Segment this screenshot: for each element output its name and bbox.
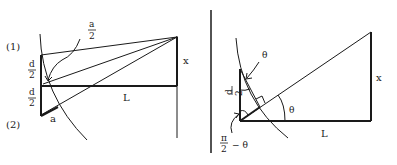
label-d-lower-num: d xyxy=(29,87,35,97)
complement-angle-arc xyxy=(240,111,248,116)
label-d-lower-den: 2 xyxy=(29,98,35,108)
label-theta-angle: θ xyxy=(289,105,294,115)
theta-top-arrow xyxy=(247,62,259,78)
theta-angle-arc xyxy=(278,95,285,121)
left-diagram: (1) (2) a 2 d 2 d 2 x L a xyxy=(6,19,189,140)
label-x-right: x xyxy=(376,72,382,83)
label-pi-num: π xyxy=(221,133,227,143)
ray-from-center xyxy=(43,37,177,84)
label-point-1: (1) xyxy=(6,41,20,52)
complement-arrow xyxy=(231,114,239,133)
label-d-upper-num: d xyxy=(29,59,35,69)
label-L-right: L xyxy=(321,128,328,139)
label-d-den-right: 2 xyxy=(234,90,244,96)
right-diagram: θ d 2 θ x L π 2 − θ xyxy=(220,32,382,154)
ray-from-slit-2 xyxy=(41,37,177,115)
double-slit-geometry-diagram: (1) (2) a 2 d 2 d 2 x L a xyxy=(0,0,397,165)
label-pi-den: 2 xyxy=(221,144,227,154)
hypotenuse-thick xyxy=(240,107,260,121)
ray-from-slit-1 xyxy=(41,37,177,55)
label-theta-top: θ xyxy=(262,50,267,60)
label-half-a-num: a xyxy=(89,19,95,29)
theta-top-angle-arc xyxy=(240,89,250,90)
label-d-num-right: d xyxy=(224,89,234,95)
label-minus-theta: − θ xyxy=(232,140,248,150)
label-a: a xyxy=(50,113,56,124)
label-half-a-den: 2 xyxy=(89,31,95,41)
label-x-left: x xyxy=(183,55,189,66)
label-d-upper-den: 2 xyxy=(29,70,35,80)
half-a-arrow xyxy=(48,39,80,80)
label-L-left: L xyxy=(123,92,130,103)
label-point-2: (2) xyxy=(6,119,20,130)
